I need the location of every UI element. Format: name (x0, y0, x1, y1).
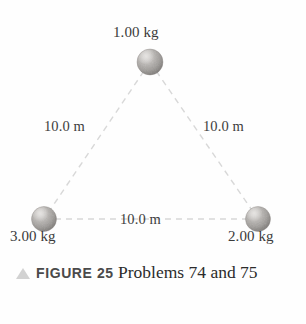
mass-label-top: 1.00 kg (113, 24, 159, 41)
side-label-bottom: 10.0 m (120, 211, 161, 228)
triangle-sides (44, 62, 258, 219)
caption-text: Problems 74 and 75 (118, 262, 258, 282)
mass-spheres (32, 49, 271, 232)
figure-container: 1.00 kg 3.00 kg 2.00 kg 10.0 m 10.0 m 10… (0, 0, 306, 324)
mass-label-right: 2.00 kg (228, 228, 274, 245)
side-label-right: 10.0 m (203, 118, 244, 135)
triangle-up-icon (16, 268, 30, 279)
triangle-diagram: 1.00 kg 3.00 kg 2.00 kg 10.0 m 10.0 m 10… (0, 0, 306, 258)
figure-number-label: FIGURE 25 (36, 265, 114, 281)
side-left-line (44, 62, 150, 219)
mass-label-left: 3.00 kg (10, 228, 56, 245)
side-right-line (150, 62, 258, 219)
mass-sphere-top (137, 49, 163, 75)
side-label-left: 10.0 m (44, 118, 85, 135)
figure-caption: FIGURE 25 Problems 74 and 75 (0, 262, 306, 284)
